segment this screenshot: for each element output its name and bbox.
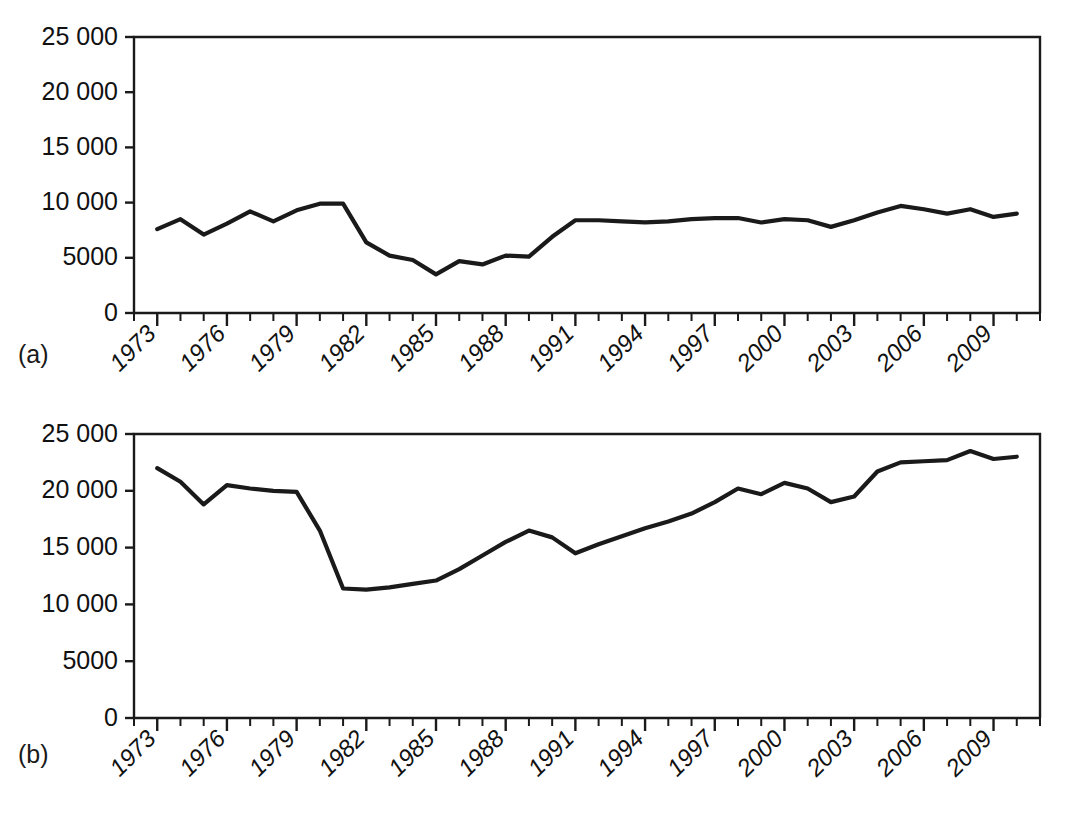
x-axis-tick-label: 2003 (800, 319, 858, 377)
chart-panel-a: 25 00020 00015 00010 0005000019731976197… (0, 0, 1065, 400)
y-axis-tick-label: 0 (104, 298, 118, 326)
data-series-line (157, 451, 1017, 590)
x-axis-tick-label: 1982 (313, 319, 370, 376)
x-axis-tick-label: 1976 (174, 319, 231, 376)
x-axis-tick-label: 1988 (452, 319, 509, 376)
x-axis-tick-label: 2003 (800, 724, 858, 782)
x-axis-tick-label: 2006 (870, 724, 928, 782)
x-axis-tick-label: 1973 (104, 319, 161, 376)
y-axis-tick-label: 25 000 (42, 22, 118, 50)
figure-two-line-charts: 25 00020 00015 00010 0005000019731976197… (0, 0, 1065, 815)
x-axis-tick-label: 1979 (243, 724, 300, 781)
x-axis-tick-label: 1997 (661, 318, 719, 376)
data-series-line (157, 204, 1017, 275)
plot-frame (134, 37, 1040, 313)
chart-b-plot: 25 00020 00015 00010 0005000019731976197… (0, 400, 1065, 815)
x-axis-tick-label: 1994 (592, 724, 649, 781)
y-axis-tick-label: 25 000 (42, 419, 118, 447)
x-axis-tick-label: 2006 (870, 319, 928, 377)
x-axis-tick-label: 2000 (730, 724, 788, 782)
y-axis-tick-label: 10 000 (42, 589, 118, 617)
y-axis-tick-label: 10 000 (42, 187, 118, 215)
x-axis-tick-label: 2009 (940, 724, 998, 782)
x-axis-tick-label: 2000 (730, 319, 788, 377)
x-axis-tick-label: 1979 (243, 319, 300, 376)
x-axis-tick-label: 1973 (104, 724, 161, 781)
x-axis-tick-label: 1985 (383, 319, 440, 376)
x-axis-tick-label: 1982 (313, 724, 370, 781)
y-axis-tick-label: 15 000 (42, 532, 118, 560)
y-axis-tick-label: 15 000 (42, 132, 118, 160)
y-axis-tick-label: 0 (104, 703, 118, 731)
y-axis-tick-label: 20 000 (42, 77, 118, 105)
x-axis-tick-label: 1997 (661, 723, 719, 781)
x-axis-tick-label: 1988 (452, 724, 509, 781)
x-axis-tick-label: 1991 (522, 319, 579, 376)
panel-label-a: (a) (18, 340, 49, 369)
y-axis-tick-label: 5000 (62, 646, 118, 674)
panel-label-b: (b) (18, 740, 49, 769)
x-axis-tick-label: 2009 (940, 319, 998, 377)
chart-a-plot: 25 00020 00015 00010 0005000019731976197… (0, 0, 1065, 400)
x-axis-tick-label: 1985 (383, 724, 440, 781)
x-axis-tick-label: 1994 (592, 319, 649, 376)
x-axis-tick-label: 1976 (174, 724, 231, 781)
plot-frame (134, 434, 1040, 718)
x-axis-tick-label: 1991 (522, 724, 579, 781)
chart-panel-b: 25 00020 00015 00010 0005000019731976197… (0, 400, 1065, 815)
y-axis-tick-label: 5000 (62, 242, 118, 270)
y-axis-tick-label: 20 000 (42, 475, 118, 503)
